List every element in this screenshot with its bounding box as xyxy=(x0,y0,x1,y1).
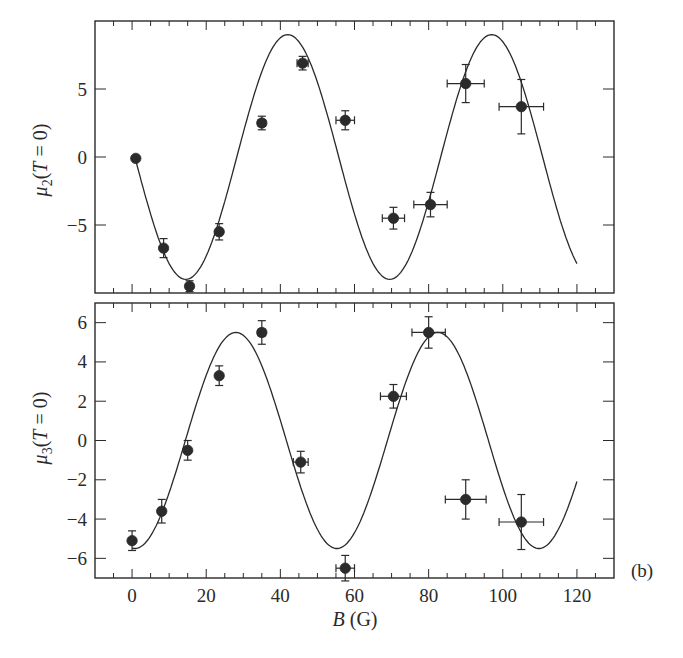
marker-dot xyxy=(214,370,224,380)
marker-dot xyxy=(257,327,267,337)
data-point xyxy=(184,281,194,292)
marker-dot xyxy=(296,457,306,467)
marker-dot xyxy=(214,227,224,237)
x-tick-label: 120 xyxy=(563,585,592,606)
x-tick-label: 20 xyxy=(197,585,216,606)
marker-dot xyxy=(388,213,398,223)
y-tick-label: 5 xyxy=(78,79,88,100)
marker-dot xyxy=(158,243,168,253)
fit-curve xyxy=(136,35,577,280)
data-point xyxy=(336,555,355,581)
data-points xyxy=(131,56,544,291)
data-point xyxy=(499,495,543,550)
data-point xyxy=(257,321,267,345)
panel-top-mu2: 50−5 xyxy=(67,21,614,293)
chart-canvas: 50−5 6420−2−4−6020406080100120 μ2(T = 0)… xyxy=(0,0,683,658)
data-point xyxy=(380,385,406,409)
data-point xyxy=(131,153,141,163)
x-tick-label: 80 xyxy=(419,585,438,606)
marker-dot xyxy=(461,78,471,88)
marker-dot xyxy=(127,535,137,545)
xlabel-unit: (G) xyxy=(345,608,378,631)
y-tick-label: 0 xyxy=(78,430,88,451)
y-tick-label: −5 xyxy=(67,215,87,236)
data-point xyxy=(214,366,224,386)
data-point xyxy=(257,116,267,130)
ylabel-top-subscript: 2 xyxy=(40,179,55,186)
ylabel-top-rest: (T = 0) xyxy=(29,124,52,180)
y-tick-label: 2 xyxy=(78,391,88,412)
panel-tag-b: (b) xyxy=(631,560,653,582)
ylabel-bottom-symbol: μ xyxy=(29,454,52,465)
y-tick-label: −4 xyxy=(67,509,88,530)
data-point xyxy=(214,224,224,240)
ylabel-bottom-subscript: 3 xyxy=(40,447,55,454)
x-axis-label: B (G) xyxy=(333,608,378,631)
y-ticks: 50−5 xyxy=(67,79,614,236)
axis-labels: μ2(T = 0) μ3(T = 0) B (G) (b) xyxy=(29,124,653,631)
data-point xyxy=(445,480,486,519)
x-tick-label: 0 xyxy=(127,585,137,606)
plot-frame xyxy=(95,303,614,578)
marker-dot xyxy=(297,58,307,68)
data-point xyxy=(382,207,404,229)
fit-curve xyxy=(132,333,577,549)
y-tick-label: 0 xyxy=(78,147,88,168)
x-ticks xyxy=(114,21,596,293)
y-axis-label-bottom: μ3(T = 0) xyxy=(29,392,55,466)
data-point xyxy=(414,192,447,216)
ylabel-top-symbol: μ xyxy=(29,186,52,197)
y-ticks: 6420−2−4−6 xyxy=(67,312,614,569)
marker-dot xyxy=(257,118,267,128)
data-point xyxy=(499,79,543,133)
ylabel-bottom-rest: (T = 0) xyxy=(29,392,52,448)
marker-dot xyxy=(388,391,398,401)
y-tick-label: −6 xyxy=(67,548,87,569)
y-tick-label: 4 xyxy=(78,351,88,372)
marker-dot xyxy=(340,115,350,125)
data-points xyxy=(127,317,544,581)
data-point xyxy=(127,531,137,551)
marker-dot xyxy=(184,281,194,291)
x-tick-labels: 020406080100120 xyxy=(127,585,591,606)
plot-frame xyxy=(95,21,614,293)
y-tick-label: −2 xyxy=(67,469,87,490)
data-point xyxy=(412,317,445,348)
x-tick-label: 40 xyxy=(271,585,290,606)
data-point xyxy=(336,111,355,130)
xlabel-symbol: B xyxy=(333,608,345,630)
figure: 50−5 6420−2−4−6020406080100120 μ2(T = 0)… xyxy=(0,0,683,658)
panel-bottom-mu3: 6420−2−4−6020406080100120 xyxy=(67,303,614,606)
marker-dot xyxy=(423,327,433,337)
marker-dot xyxy=(340,563,350,573)
x-tick-label: 100 xyxy=(489,585,518,606)
data-point xyxy=(447,65,484,103)
marker-dot xyxy=(516,101,526,111)
marker-dot xyxy=(182,445,192,455)
y-axis-label-top: μ2(T = 0) xyxy=(29,124,55,198)
marker-dot xyxy=(516,517,526,527)
marker-dot xyxy=(131,153,141,163)
data-point xyxy=(297,56,308,70)
marker-dot xyxy=(157,506,167,516)
marker-dot xyxy=(461,494,471,504)
y-tick-label: 6 xyxy=(78,312,88,333)
x-tick-label: 60 xyxy=(345,585,364,606)
marker-dot xyxy=(425,199,435,209)
